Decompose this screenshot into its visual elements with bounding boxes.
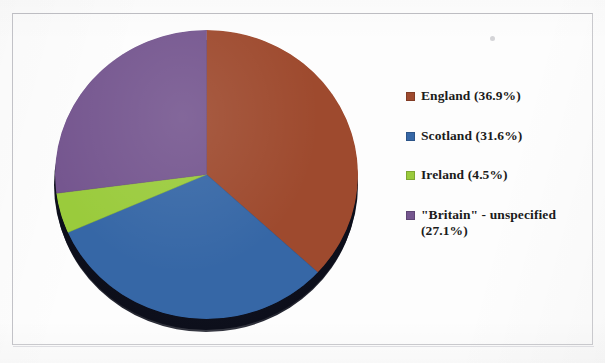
legend-label-ireland: Ireland (4.5%) (421, 167, 508, 184)
legend-swatch-scotland-icon (406, 132, 415, 141)
pie-chart (54, 30, 360, 326)
legend-item-britain[interactable]: "Britain" - unspecified (27.1%) (406, 207, 596, 240)
pie-slice-britain-unspecified[interactable] (55, 30, 207, 193)
legend-label-scotland: Scotland (31.6%) (421, 128, 522, 145)
legend-label-england: England (36.9%) (421, 88, 521, 105)
legend-swatch-britain-icon (406, 211, 415, 220)
legend-label-britain: "Britain" - unspecified (27.1%) (421, 207, 556, 240)
legend-item-scotland[interactable]: Scotland (31.6%) (406, 128, 596, 145)
figure-page: England (36.9%) Scotland (31.6%) Ireland… (0, 0, 605, 363)
scan-artifact-speck (490, 36, 495, 41)
legend-swatch-england-icon (406, 92, 415, 101)
chart-legend: England (36.9%) Scotland (31.6%) Ireland… (406, 88, 596, 240)
pie-face (55, 30, 358, 319)
legend-item-ireland[interactable]: Ireland (4.5%) (406, 167, 596, 184)
legend-swatch-ireland-icon (406, 171, 415, 180)
legend-item-england[interactable]: England (36.9%) (406, 88, 596, 105)
pie-slices-svg (55, 30, 358, 319)
